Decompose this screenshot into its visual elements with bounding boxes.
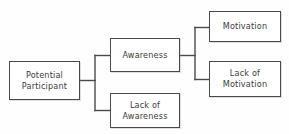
flowchart-diagram: Potential Participant Awareness Lack of … [0,0,289,134]
node-label: Motivation [221,21,269,32]
node-awareness[interactable]: Awareness [110,38,180,72]
node-potential-participant[interactable]: Potential Participant [9,61,80,100]
node-label: Lack of Motivation [221,68,269,90]
node-label: Lack of Awareness [120,100,169,122]
node-lack-of-motivation[interactable]: Lack of Motivation [209,61,281,97]
node-lack-of-awareness[interactable]: Lack of Awareness [110,93,180,128]
node-motivation[interactable]: Motivation [209,11,281,42]
node-label: Awareness [120,50,169,61]
node-label: Potential Participant [20,70,69,92]
